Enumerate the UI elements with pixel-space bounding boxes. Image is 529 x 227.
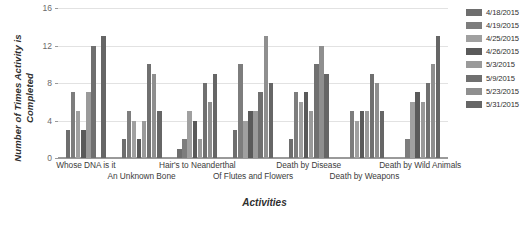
bar-slot (269, 8, 273, 158)
bar[interactable] (177, 149, 181, 158)
bar[interactable] (289, 139, 293, 158)
bar[interactable] (127, 111, 131, 158)
bar[interactable] (304, 92, 308, 158)
bar[interactable] (436, 36, 440, 158)
bar[interactable] (375, 83, 379, 158)
bar[interactable] (142, 121, 146, 159)
legend-item[interactable]: 5/23/2015 (466, 85, 528, 98)
bar[interactable] (81, 130, 85, 158)
bar[interactable] (415, 92, 419, 158)
bar[interactable] (182, 139, 186, 158)
bar[interactable] (309, 111, 313, 158)
legend-item[interactable]: 4/18/2015 (466, 6, 528, 19)
bar-slot (380, 8, 384, 158)
bar[interactable] (198, 139, 202, 158)
bar[interactable] (86, 92, 90, 158)
bar[interactable] (66, 130, 70, 158)
bar-slot (101, 8, 105, 158)
legend-item[interactable]: 4/19/2015 (466, 19, 528, 32)
x-axis-title: Activities (0, 197, 529, 208)
legend-item[interactable]: 5/3/2015 (466, 58, 528, 71)
y-axis-tick-label: 4 (47, 116, 52, 126)
bar-slot (152, 8, 156, 158)
bar[interactable] (431, 64, 435, 158)
bar-slot (142, 8, 146, 158)
bar[interactable] (360, 111, 364, 158)
bar[interactable] (152, 74, 156, 158)
bar-slot (137, 8, 141, 158)
bar[interactable] (264, 36, 268, 158)
legend-label: 4/26/2015 (486, 47, 519, 56)
bar-slot (238, 8, 242, 158)
bar-slot (208, 8, 212, 158)
bar-slot (370, 8, 374, 158)
bar-slot (431, 8, 435, 158)
y-axis-title-line-2: Completed (24, 73, 36, 123)
bar[interactable] (355, 121, 359, 159)
bar[interactable] (319, 46, 323, 159)
bar-slot (436, 8, 440, 158)
bar[interactable] (248, 111, 252, 158)
bar-slot (177, 8, 181, 158)
bar[interactable] (324, 74, 328, 158)
bar-slot (314, 8, 318, 158)
bar-group (337, 8, 393, 158)
bar-slot (157, 8, 161, 158)
legend-swatch-icon (466, 9, 482, 16)
bar[interactable] (137, 139, 141, 158)
bar[interactable] (380, 111, 384, 158)
bar-slot (187, 8, 191, 158)
bar-slot (71, 8, 75, 158)
bar[interactable] (71, 92, 75, 158)
bar[interactable] (258, 92, 262, 158)
bar[interactable] (203, 83, 207, 158)
bar-slot (81, 8, 85, 158)
bar-slot (203, 8, 207, 158)
bar[interactable] (187, 111, 191, 158)
legend-item[interactable]: 5/9/2015 (466, 71, 528, 84)
y-axis-title: Number of Times Activity is Completed (4, 33, 44, 163)
bar[interactable] (193, 121, 197, 159)
bar[interactable] (421, 102, 425, 158)
bar-slot (309, 8, 313, 158)
bar-group (392, 8, 448, 158)
legend-item[interactable]: 5/31/2015 (466, 98, 528, 111)
bar[interactable] (410, 102, 414, 158)
bar[interactable] (350, 111, 354, 158)
bar[interactable] (233, 130, 237, 158)
bar-slot (213, 8, 217, 158)
bar-slot (76, 8, 80, 158)
bar[interactable] (91, 46, 95, 159)
x-axis-category-label: An Unknown Bone (108, 171, 176, 181)
bar-slot (258, 8, 262, 158)
bar[interactable] (365, 111, 369, 158)
bar[interactable] (294, 92, 298, 158)
y-axis-tick-label: 16 (43, 3, 52, 13)
bar[interactable] (253, 111, 257, 158)
bar-slot (350, 8, 354, 158)
bar[interactable] (243, 121, 247, 159)
bar[interactable] (122, 139, 126, 158)
legend-label: 5/3/2015 (486, 60, 515, 69)
bar[interactable] (405, 139, 409, 158)
bar[interactable] (147, 64, 151, 158)
bar[interactable] (426, 83, 430, 158)
legend-item[interactable]: 4/26/2015 (466, 45, 528, 58)
y-axis-tick-label: 8 (47, 78, 52, 88)
legend-swatch-icon (466, 101, 482, 108)
bar[interactable] (101, 36, 105, 158)
bar-slot (248, 8, 252, 158)
bar[interactable] (132, 121, 136, 159)
bar-slot (294, 8, 298, 158)
bar[interactable] (299, 102, 303, 158)
bar[interactable] (238, 64, 242, 158)
legend-item[interactable]: 4/25/2015 (466, 32, 528, 45)
bar[interactable] (213, 74, 217, 158)
bar[interactable] (370, 74, 374, 158)
bar-slot (147, 8, 151, 158)
bar[interactable] (157, 111, 161, 158)
bar[interactable] (208, 102, 212, 158)
bar[interactable] (76, 111, 80, 158)
bar[interactable] (314, 64, 318, 158)
bar[interactable] (269, 83, 273, 158)
